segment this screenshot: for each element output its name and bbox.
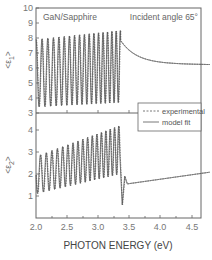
svg-text:9: 9 bbox=[28, 18, 33, 28]
svg-text:<ε2>: <ε2> bbox=[3, 156, 15, 174]
svg-text:2.0: 2.0 bbox=[30, 222, 43, 232]
svg-text:4.5: 4.5 bbox=[186, 222, 199, 232]
svg-text:8: 8 bbox=[28, 33, 33, 43]
legend: experimental model fit bbox=[138, 103, 205, 131]
svg-text:5: 5 bbox=[28, 78, 33, 88]
bottom-y-axis-label: <ε2> bbox=[3, 156, 15, 174]
sample-annotation: GaN/Sapphire bbox=[43, 12, 97, 22]
top-y-axis-label: <ε1> bbox=[3, 51, 15, 69]
bottom-y-tick-labels: 1 2 3 4 bbox=[28, 125, 33, 201]
svg-text:3.0: 3.0 bbox=[92, 222, 105, 232]
angle-annotation: Incident angle 65° bbox=[130, 12, 198, 22]
svg-text:4.0: 4.0 bbox=[154, 222, 167, 232]
svg-text:4: 4 bbox=[28, 93, 33, 103]
svg-text:3: 3 bbox=[28, 147, 33, 157]
top-epsilon1-curves bbox=[36, 31, 210, 107]
svg-text:3: 3 bbox=[28, 108, 33, 118]
top-y-tick-labels: 3 4 5 6 7 8 9 10 bbox=[23, 3, 33, 118]
svg-text:1: 1 bbox=[28, 191, 33, 201]
svg-text:<ε1>: <ε1> bbox=[3, 51, 15, 69]
x-axis-label: PHOTON ENERGY (eV) bbox=[63, 240, 172, 251]
svg-text:6: 6 bbox=[28, 63, 33, 73]
bottom-epsilon2-curves bbox=[36, 126, 210, 205]
chart-canvas: 3 4 5 6 7 8 9 10 1 2 3 4 2.0 2.5 3.0 3.5… bbox=[0, 0, 212, 260]
svg-text:4: 4 bbox=[28, 125, 33, 135]
svg-text:10: 10 bbox=[23, 3, 33, 13]
svg-text:2: 2 bbox=[28, 169, 33, 179]
svg-text:7: 7 bbox=[28, 48, 33, 58]
svg-text:3.5: 3.5 bbox=[123, 222, 136, 232]
x-tick-labels: 2.0 2.5 3.0 3.5 4.0 4.5 bbox=[30, 222, 199, 232]
legend-experimental: experimental bbox=[162, 107, 205, 116]
svg-text:2.5: 2.5 bbox=[61, 222, 74, 232]
legend-model-fit: model fit bbox=[162, 118, 191, 127]
